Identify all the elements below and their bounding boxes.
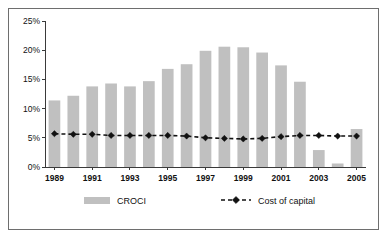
legend-swatch-croci [84, 197, 110, 204]
y-axis-ticks: 0%5%10%15%20%25% [23, 16, 45, 172]
y-tick-label: 0% [28, 162, 41, 172]
bar [105, 83, 117, 167]
y-tick-label: 20% [23, 45, 40, 55]
legend-entry-cost-of-capital: Cost of capital [221, 196, 315, 206]
y-tick-label: 10% [23, 104, 40, 114]
bar [86, 86, 98, 167]
x-tick-label: 1999 [234, 173, 253, 183]
x-tick-label: 1991 [83, 173, 102, 183]
bar [237, 47, 249, 167]
bar [275, 65, 287, 167]
bar [200, 51, 212, 167]
bar [294, 82, 306, 167]
bar [181, 64, 193, 167]
chart-legend: CROCICost of capital [84, 196, 315, 206]
chart-plot-area: 0%5%10%15%20%25%198919911993199519971999… [9, 9, 378, 229]
data-point-marker [316, 132, 322, 138]
legend-diamond-icon [232, 196, 239, 203]
bar [219, 47, 231, 167]
bar-series-croci [49, 47, 363, 167]
legend-label-croci: CROCI [117, 196, 146, 206]
bar [313, 150, 325, 167]
x-tick-label: 1995 [158, 173, 177, 183]
x-tick-label: 2005 [347, 173, 366, 183]
bar [143, 81, 155, 167]
bar [124, 86, 136, 167]
x-tick-label: 2001 [272, 173, 291, 183]
bar [332, 163, 344, 167]
x-axis-ticks: 198919911993199519971999200120032005 [45, 167, 366, 183]
croci-vs-cost-of-capital-chart: 0%5%10%15%20%25%198919911993199519971999… [9, 9, 378, 229]
y-tick-label: 15% [23, 74, 40, 84]
x-tick-label: 1989 [45, 173, 64, 183]
legend-entry-croci: CROCI [84, 196, 146, 206]
bar [162, 69, 174, 167]
x-tick-label: 1993 [121, 173, 140, 183]
legend-label-cost-of-capital: Cost of capital [258, 196, 315, 206]
data-point-marker [335, 133, 341, 139]
y-tick-label: 5% [28, 133, 41, 143]
x-tick-label: 1997 [196, 173, 215, 183]
x-tick-label: 2003 [309, 173, 328, 183]
chart-figure: 0%5%10%15%20%25%198919911993199519971999… [8, 8, 379, 230]
bar [256, 53, 268, 167]
y-tick-label: 25% [23, 16, 40, 26]
